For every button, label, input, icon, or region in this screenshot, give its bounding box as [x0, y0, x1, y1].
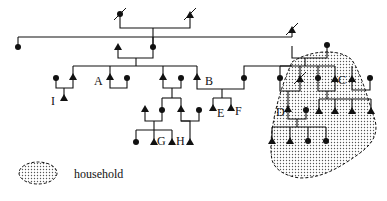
label-f: F — [235, 104, 242, 118]
female-icon — [324, 42, 330, 48]
male-icon — [114, 43, 122, 50]
female-icon — [277, 75, 283, 81]
male-icon — [209, 104, 217, 111]
female-icon — [150, 44, 156, 50]
legend-household-label: household — [74, 167, 123, 181]
label-b: B — [205, 74, 213, 88]
male-icon — [193, 73, 201, 80]
female-icon — [178, 75, 184, 81]
female-icon — [159, 107, 165, 113]
label-a: A — [94, 74, 103, 88]
label-d: D — [276, 105, 285, 119]
female-icon — [196, 107, 202, 113]
female-icon — [323, 138, 329, 144]
household-region — [271, 52, 376, 178]
label-c: C — [338, 73, 346, 87]
male-icon — [106, 73, 114, 80]
label-e: E — [217, 106, 224, 120]
male-icon — [159, 73, 167, 80]
female-icon — [15, 44, 21, 50]
female-icon — [133, 139, 139, 145]
legend: household — [19, 162, 123, 184]
female-icon — [53, 75, 59, 81]
female-icon — [241, 75, 247, 81]
female-icon — [315, 75, 321, 81]
male-icon — [60, 94, 68, 101]
male-icon — [69, 73, 77, 80]
female-icon — [303, 107, 309, 113]
male-icon — [168, 138, 176, 145]
male-icon — [227, 104, 235, 111]
male-icon — [177, 105, 185, 112]
label-h: H — [176, 134, 185, 148]
female-icon — [305, 138, 311, 144]
female-icon — [367, 75, 373, 81]
female-icon — [124, 75, 130, 81]
kinship-diagram: A B C D E F G H I household — [0, 0, 387, 201]
male-icon — [186, 138, 194, 145]
household-legend-swatch — [19, 162, 57, 184]
label-i: I — [51, 94, 55, 108]
label-g: G — [157, 134, 166, 148]
male-icon — [141, 105, 149, 112]
